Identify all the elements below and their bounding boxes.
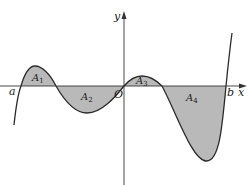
interval-right-label: b	[227, 86, 234, 99]
y-axis-label: y	[113, 10, 121, 23]
origin-label: O	[114, 88, 123, 101]
interval-left-label: a	[9, 85, 16, 98]
function-area-diagram: y x O a b A1 A2 A3 A4	[0, 0, 249, 185]
y-axis-arrow-icon	[122, 11, 127, 19]
x-axis-label: x	[238, 86, 245, 99]
shaded-regions	[21, 66, 226, 161]
